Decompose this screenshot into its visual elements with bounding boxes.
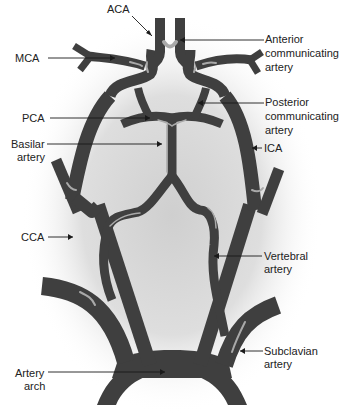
label-posterior-communicating-3: artery [265,124,294,136]
label-ica: ICA [264,142,283,154]
label-vertebral-1: Vertebral [264,250,308,262]
label-vertebral-2: artery [264,263,293,275]
label-anterior-communicating-1: Anterior [265,33,304,45]
label-aca: ACA [107,3,130,15]
label-posterior-communicating-2: communicating [265,110,339,122]
label-basilar-1: Basilar [11,138,45,150]
label-anterior-communicating-2: communicating [265,47,339,59]
left-mca-fork-up [74,46,90,56]
circle-of-willis-diagram: ACA MCA Anterior communicating artery Po… [0,0,345,414]
label-cca: CCA [21,231,45,243]
label-mca: MCA [15,52,40,64]
label-artery-arch-2: arch [24,380,45,392]
label-posterior-communicating-1: Posterior [265,96,309,108]
label-basilar-2: artery [17,151,46,163]
label-subclavian-2: artery [264,358,293,370]
label-subclavian-1: Subclavian [264,345,318,357]
label-anterior-communicating-3: artery [265,61,294,73]
label-artery-arch-1: Artery [15,367,45,379]
label-pca: PCA [22,112,45,124]
